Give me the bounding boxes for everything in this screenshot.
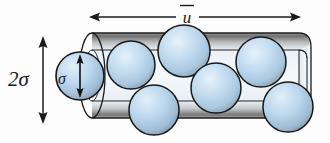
molecule-3 — [129, 85, 179, 135]
molecule-6 — [263, 82, 313, 132]
cylinder-diameter-label: 2σ — [8, 67, 31, 91]
molecule-5 — [236, 37, 286, 87]
molecule-4 — [191, 63, 241, 113]
molecule-diameter-label: σ — [58, 70, 67, 87]
cylinder-diameter-arrow — [39, 36, 48, 124]
mean-speed-arrow — [89, 13, 301, 22]
figure-canvas: u 2σ σ — [0, 0, 330, 143]
mean-speed-label: u — [180, 6, 194, 28]
mean-speed-label-text: u — [183, 8, 192, 27]
molecule-1 — [107, 41, 155, 89]
collision-cylinder-figure: u 2σ σ — [0, 0, 330, 143]
